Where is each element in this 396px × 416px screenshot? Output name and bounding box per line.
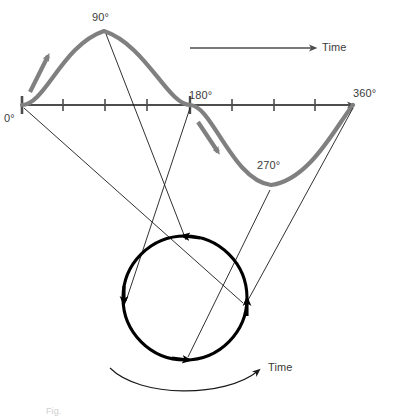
projection-lines <box>24 34 353 357</box>
label-time-axis: Time <box>322 41 346 53</box>
circle-arrow-top <box>184 236 200 238</box>
label-360-degrees: 360° <box>353 87 376 99</box>
sine-wave-path <box>22 31 353 185</box>
circle-time-arc <box>110 368 258 391</box>
label-270-degrees: 270° <box>257 159 280 171</box>
rotation-circle <box>123 236 247 360</box>
sine-wave <box>22 31 353 185</box>
figure-root: 0° 90° 180° 270° 360° Time Time Fig. <box>0 0 396 416</box>
figure-caption: Fig. <box>46 406 61 416</box>
label-180-degrees: 180° <box>189 89 212 101</box>
label-time-circle: Time <box>268 361 292 373</box>
projection-line-270deg <box>188 190 270 357</box>
label-90-degrees: 90° <box>92 11 109 23</box>
label-0-degrees: 0° <box>4 112 15 124</box>
circle-arrow-bottom <box>172 358 188 360</box>
projection-line-180deg <box>126 108 190 301</box>
circle-path <box>123 236 247 360</box>
diagram-canvas <box>0 0 396 416</box>
